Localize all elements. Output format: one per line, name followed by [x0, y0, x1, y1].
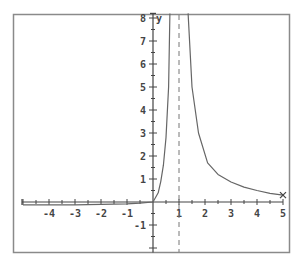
x-tick-label: -1: [121, 208, 133, 219]
x-tick-label: 4: [254, 208, 260, 219]
y-tick-label: 1: [140, 174, 146, 185]
x-tick-label: -3: [69, 208, 81, 219]
y-axis-label: y: [156, 13, 162, 24]
x-tick-label: 2: [202, 208, 208, 219]
y-tick-label: 4: [140, 105, 146, 116]
axis-ticks: [23, 18, 283, 248]
y-tick-label: 8: [140, 13, 146, 24]
x-tick-label: -4: [43, 208, 55, 219]
y-tick-label: 2: [140, 151, 146, 162]
y-tick-label: 7: [140, 36, 146, 47]
curve-left-branch: [23, 13, 170, 204]
y-tick-label: 3: [140, 128, 146, 139]
curve-right-branch: [188, 13, 283, 195]
y-tick-label: 6: [140, 59, 146, 70]
y-tick-label: -1: [134, 220, 146, 231]
x-tick-label: -2: [95, 208, 107, 219]
function-graph: -4-3-2-11234587654321-1 y: [0, 0, 299, 255]
y-tick-label: 5: [140, 82, 146, 93]
tick-labels: -4-3-2-11234587654321-1: [43, 13, 286, 231]
x-tick-label: 3: [228, 208, 234, 219]
x-tick-label: 5: [280, 208, 286, 219]
